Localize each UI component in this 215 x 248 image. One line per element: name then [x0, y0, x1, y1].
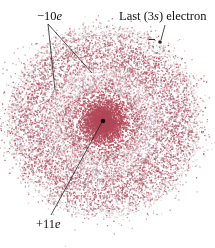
nucleus-charge: +11	[36, 217, 55, 231]
inner-electrons-charge: −10	[37, 9, 57, 23]
inner-electrons-unit: e	[57, 9, 63, 23]
last-electron-prefix: Last (3	[119, 9, 154, 23]
last-electron-sign: −	[148, 33, 155, 46]
last-electron-label: Last (3s) electron	[119, 10, 206, 23]
inner-shell-leader-1	[48, 24, 55, 90]
nucleus-unit: e	[55, 217, 61, 231]
nucleus-leader	[51, 122, 102, 215]
nucleus-label: +11e	[36, 218, 61, 231]
annotation-layer	[0, 0, 215, 248]
nucleus-dot	[101, 119, 106, 124]
inner-electrons-label: −10e	[37, 10, 62, 23]
last-electron-dot	[158, 40, 162, 44]
last-electron-suffix: ) electron	[159, 9, 207, 23]
inner-shell-leader-2	[48, 24, 92, 73]
last-electron-leader	[161, 25, 165, 40]
